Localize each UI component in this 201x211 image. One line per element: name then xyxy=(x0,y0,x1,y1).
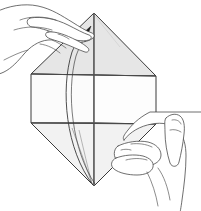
right-hand-index-finger xyxy=(165,114,185,166)
paper-band-left-face xyxy=(31,74,94,123)
right-hand-crease-4 xyxy=(158,168,170,200)
paper-upper-right-face xyxy=(94,13,156,76)
origami-diagram: Origami fold step diagram Line drawing o… xyxy=(0,0,201,211)
diagram-canvas xyxy=(0,0,201,211)
right-hand-crease-5 xyxy=(147,172,158,206)
